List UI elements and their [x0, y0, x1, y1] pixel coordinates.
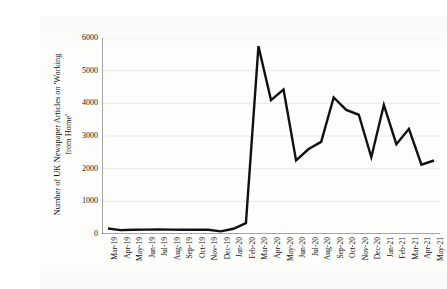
- x-axis-tick-label: Nov-19: [211, 237, 219, 260]
- series-line-wfh-articles: [108, 46, 434, 231]
- x-axis-tick-label: Oct-19: [199, 237, 207, 258]
- x-axis-tick-label: Dec-20: [374, 237, 382, 259]
- x-axis-tick-label: Jan-20: [236, 237, 244, 257]
- x-axis-tick-label: Jul-20: [312, 237, 320, 256]
- x-axis-tick-label: May-21: [437, 237, 445, 261]
- y-axis-tick-label: 6000: [72, 34, 98, 42]
- x-axis-tick-label: Feb-20: [249, 237, 257, 259]
- x-axis-tick-label: Feb-21: [399, 237, 407, 259]
- y-axis-tick-label: 5000: [72, 67, 98, 75]
- y-axis-tick-label: 3000: [72, 132, 98, 140]
- x-axis-tick-label: May-20: [287, 237, 295, 261]
- x-axis-tick-label: Oct-20: [349, 237, 357, 258]
- x-axis-tick-label: Jan-21: [387, 237, 395, 257]
- y-axis-tick-label: 2000: [72, 165, 98, 173]
- x-axis-tick-label: Jun-19: [149, 237, 157, 258]
- y-axis-tick-label: 4000: [72, 99, 98, 107]
- line-chart-figure: Number of UK Newspaper Articles on 'Work…: [40, 16, 447, 289]
- x-axis-tick-label: Sep-20: [337, 237, 345, 259]
- x-axis-tick-label: Mar-20: [261, 237, 269, 260]
- x-axis-tick-label: Aug-20: [324, 237, 332, 260]
- plot-area: [102, 38, 440, 234]
- y-axis-tick-label: 1000: [72, 197, 98, 205]
- y-axis-tick-labels: 0100020003000400050006000: [68, 16, 98, 289]
- x-axis-tick-labels: Mar-19Apr-19May-19Jun-19Jul-19Aug-19Sep-…: [102, 237, 440, 289]
- x-axis-tick-label: Jul-19: [161, 237, 169, 256]
- x-axis-tick-label: Dec-19: [224, 237, 232, 259]
- x-axis-tick-label: Sep-19: [186, 237, 194, 259]
- y-axis-title-line1: Number of UK Newspaper Articles on 'Work…: [53, 54, 62, 216]
- x-axis-tick-label: Nov-20: [362, 237, 370, 260]
- x-axis-tick-label: Apr-19: [124, 237, 132, 259]
- plot-svg: [102, 38, 440, 234]
- y-axis-tick-label: 0: [72, 230, 98, 238]
- x-axis-tick-label: Aug-19: [174, 237, 182, 260]
- x-axis-tick-label: Apr-21: [424, 237, 432, 259]
- x-axis-tick-label: Mar-19: [111, 237, 119, 260]
- x-axis-tick-label: Jun-20: [299, 237, 307, 258]
- x-axis-tick-label: Mar-21: [412, 237, 420, 260]
- x-axis-tick-label: Apr-20: [274, 237, 282, 259]
- x-axis-tick-label: May-19: [136, 237, 144, 261]
- series-line-group: [108, 46, 434, 231]
